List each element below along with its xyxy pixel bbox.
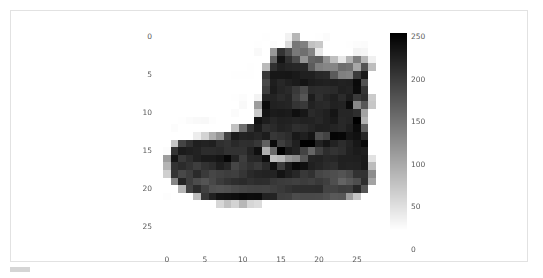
colorbar [390, 33, 407, 231]
colorbar-tick-label: 50 [411, 202, 437, 211]
y-tick-label: 0 [130, 32, 152, 41]
y-tick-label: 20 [130, 184, 152, 193]
x-tick-label: 20 [308, 255, 330, 264]
y-tick-label: 10 [130, 108, 152, 117]
colorbar-tick-label: 200 [411, 75, 437, 84]
y-tick-label: 15 [130, 146, 152, 155]
colorbar-tick-label: 150 [411, 117, 437, 126]
figure-card: 0510152025 0510152025 250200150100500 [10, 10, 528, 262]
imshow-axes [163, 33, 376, 246]
x-tick-label: 15 [270, 255, 292, 264]
corner-tab [10, 267, 30, 272]
y-tick-label: 25 [130, 222, 152, 231]
x-tick-label: 0 [156, 255, 178, 264]
colorbar-tick-label: 250 [411, 32, 437, 41]
heatmap-image [163, 33, 376, 246]
colorbar-tick-label: 100 [411, 160, 437, 169]
x-tick-label: 25 [346, 255, 368, 264]
y-tick-label: 5 [130, 70, 152, 79]
colorbar-tick-label: 0 [411, 245, 437, 254]
x-tick-label: 10 [232, 255, 254, 264]
x-tick-label: 5 [194, 255, 216, 264]
figure-root: 0510152025 0510152025 250200150100500 [0, 0, 543, 278]
colorbar-gradient [390, 33, 407, 231]
